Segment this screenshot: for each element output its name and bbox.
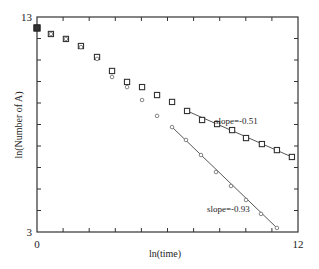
axis-ticks <box>37 17 298 232</box>
slope-annotation-lower: slope=-0.93 <box>207 204 250 214</box>
data-point-circle <box>125 85 129 89</box>
x-max-label: 12 <box>293 238 304 250</box>
data-point-square <box>169 99 174 104</box>
chart: 13 3 0 12 ln(time) ln(Number of A) slope… <box>0 0 319 269</box>
data-point-circle <box>79 45 83 49</box>
data-points <box>34 25 295 230</box>
data-point-square <box>243 135 248 140</box>
data-point-circle <box>95 57 99 61</box>
data-point-square <box>274 147 279 152</box>
y-min-label: 3 <box>27 226 33 238</box>
data-point-circle <box>155 114 159 118</box>
data-point-circle <box>140 98 144 102</box>
data-point-square <box>259 141 264 146</box>
data-point-square <box>199 117 204 122</box>
data-point-circle <box>184 138 188 142</box>
data-point-square <box>184 108 189 113</box>
data-point-square <box>139 84 144 89</box>
data-point-circle <box>244 198 248 202</box>
data-point-circle <box>64 37 68 41</box>
data-point-square <box>154 92 159 97</box>
data-point-square <box>124 79 129 84</box>
x-min-label: 0 <box>34 238 40 250</box>
slope-annotation-upper: slope=-0.51 <box>215 116 258 126</box>
y-max-label: 13 <box>21 11 33 23</box>
y-axis-label: ln(Number of A) <box>13 91 25 158</box>
data-point-square <box>109 68 114 73</box>
data-point-square <box>289 154 294 159</box>
data-point-circle <box>275 226 279 230</box>
data-point-circle <box>229 184 233 188</box>
data-point-circle <box>214 170 218 174</box>
x-axis-label: ln(time) <box>149 248 181 260</box>
data-point-circle <box>49 32 53 36</box>
plot-border <box>37 17 298 232</box>
data-point-circle <box>170 125 174 129</box>
data-point-circle <box>199 153 203 157</box>
data-point-origin <box>34 25 40 31</box>
plot-frame <box>37 17 298 232</box>
data-point-square <box>229 127 234 132</box>
data-point-circle <box>259 212 263 216</box>
data-point-circle <box>110 75 114 79</box>
